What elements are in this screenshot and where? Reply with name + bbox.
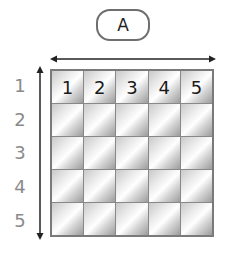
- grid-cell: [149, 104, 180, 136]
- header-cell-2: 2: [84, 71, 115, 103]
- grid-cell: [84, 137, 115, 169]
- header-cell-4: 4: [149, 71, 180, 103]
- grid-cell: [181, 104, 212, 136]
- grid-cell: [84, 203, 115, 235]
- column-header-pill: A: [96, 9, 150, 41]
- grid-cell: [52, 170, 83, 202]
- header-cell-5: 5: [181, 71, 212, 103]
- grid-cell: [181, 170, 212, 202]
- grid-cell: [181, 203, 212, 235]
- grid-cell: [52, 104, 83, 136]
- header-cell-1: 1: [52, 71, 83, 103]
- row-label-5: 5: [8, 203, 32, 237]
- grid-cell: [84, 170, 115, 202]
- column-header-label: A: [117, 15, 129, 35]
- grid-cell: [149, 170, 180, 202]
- grid-cell: [149, 203, 180, 235]
- header-cell-3: 3: [116, 71, 147, 103]
- row-label-3: 3: [8, 136, 32, 170]
- row-label-2: 2: [8, 103, 32, 137]
- row-label-4: 4: [8, 170, 32, 204]
- grid-cell: [149, 137, 180, 169]
- grid-cell: [52, 203, 83, 235]
- grid-cell: [181, 137, 212, 169]
- grid-cell: [116, 203, 147, 235]
- grid-cell: [84, 104, 115, 136]
- row-labels: 1 2 3 4 5: [8, 69, 32, 237]
- grid-cell: [116, 170, 147, 202]
- grid: 1 2 3 4 5: [50, 69, 214, 237]
- grid-cell: [116, 104, 147, 136]
- row-label-1: 1: [8, 69, 32, 103]
- grid-cell: [116, 137, 147, 169]
- grid-cell: [52, 137, 83, 169]
- vertical-double-arrow-icon: [34, 66, 46, 240]
- horizontal-double-arrow-icon: [50, 54, 216, 64]
